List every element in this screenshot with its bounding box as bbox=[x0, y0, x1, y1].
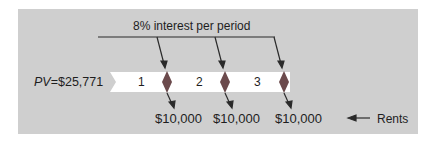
present-value-label: PV=$25,771 bbox=[34, 75, 103, 89]
interest-rate-label: 8% interest per period bbox=[133, 19, 250, 33]
rents-legend-arrow-icon bbox=[348, 115, 370, 121]
period-label-1: 1 bbox=[138, 75, 145, 89]
period-label-2: 2 bbox=[196, 75, 203, 89]
rent-amount-3: $10,000 bbox=[275, 111, 322, 126]
interest-arrows bbox=[157, 37, 284, 68]
rent-arrows bbox=[167, 93, 292, 108]
pv-symbol: PV bbox=[34, 75, 51, 89]
rents-legend-label: Rents bbox=[377, 112, 408, 126]
pv-amount: $25,771 bbox=[58, 75, 103, 89]
rent-amount-1: $10,000 bbox=[155, 111, 202, 126]
rent-amount-2: $10,000 bbox=[213, 111, 260, 126]
pv-equals: = bbox=[51, 75, 58, 89]
period-label-3: 3 bbox=[254, 75, 261, 89]
